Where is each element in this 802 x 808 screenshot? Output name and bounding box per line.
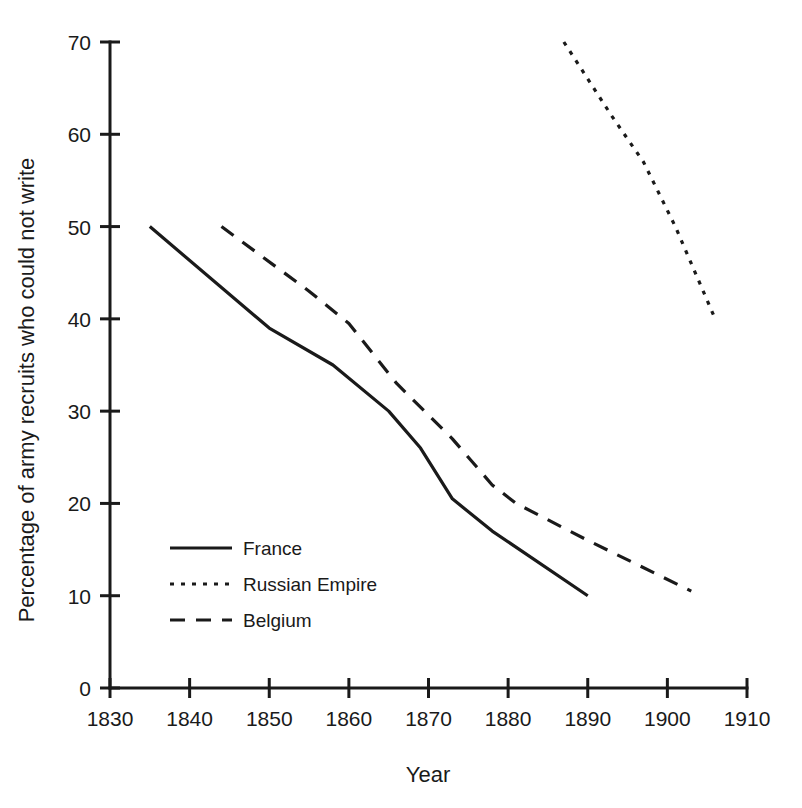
series-line-france (150, 227, 588, 596)
legend-label-france: France (243, 538, 302, 559)
data-series-group (150, 42, 715, 596)
x-axis-ticks: 183018401850186018701880189019001910 (87, 678, 771, 730)
y-tick-label: 60 (68, 123, 91, 146)
y-tick-label: 0 (79, 677, 91, 700)
y-tick-label: 40 (68, 308, 91, 331)
x-tick-label: 1900 (644, 707, 691, 730)
y-tick-label: 30 (68, 400, 91, 423)
line-chart: 010203040506070 183018401850186018701880… (0, 0, 802, 808)
y-axis-ticks: 010203040506070 (68, 31, 120, 700)
x-tick-label: 1840 (166, 707, 213, 730)
y-tick-label: 50 (68, 216, 91, 239)
y-tick-label: 20 (68, 492, 91, 515)
x-tick-label: 1860 (326, 707, 373, 730)
chart-container: 010203040506070 183018401850186018701880… (0, 0, 802, 808)
chart-legend: FranceRussian EmpireBelgium (170, 538, 377, 631)
x-tick-label: 1890 (564, 707, 611, 730)
x-tick-label: 1870 (405, 707, 452, 730)
series-line-belgium (221, 227, 691, 592)
legend-label-belgium: Belgium (243, 610, 312, 631)
x-tick-label: 1880 (485, 707, 532, 730)
y-tick-label: 70 (68, 31, 91, 54)
legend-label-russian-empire: Russian Empire (243, 574, 377, 595)
y-tick-label: 10 (68, 585, 91, 608)
series-line-russian-empire (564, 42, 715, 319)
x-tick-label: 1910 (724, 707, 771, 730)
x-axis-title: Year (406, 762, 450, 787)
y-axis-title: Percentage of army recruits who could no… (14, 158, 39, 623)
x-tick-label: 1850 (246, 707, 293, 730)
x-tick-label: 1830 (87, 707, 134, 730)
